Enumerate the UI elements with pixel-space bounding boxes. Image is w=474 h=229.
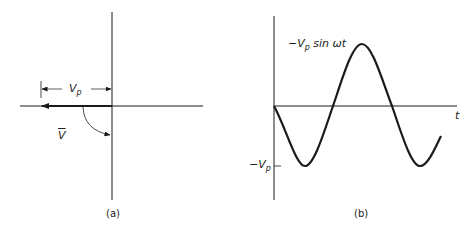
caption-b: (b) [354,209,368,219]
curve-label-prefix: −V [288,37,305,50]
curve-label: −Vp sin ωt [288,38,346,52]
figure-canvas [0,0,474,229]
curve-label-suffix: sin ωt [310,37,346,50]
sine-waveform [274,44,441,166]
magnitude-label-main: V [69,82,77,95]
neg-peak-sub: p [266,164,271,173]
panel-a-diagram [20,12,203,200]
rotation-arc [83,107,110,135]
magnitude-label-sub: p [77,88,82,97]
neg-peak-label: −Vp [249,159,271,173]
phasor-label-text: V [58,129,66,142]
phasor-label: V [58,130,66,141]
neg-peak-prefix: −V [249,158,266,171]
magnitude-label: Vp [69,83,82,97]
caption-a: (a) [106,209,120,219]
time-axis-label: t [455,110,459,121]
